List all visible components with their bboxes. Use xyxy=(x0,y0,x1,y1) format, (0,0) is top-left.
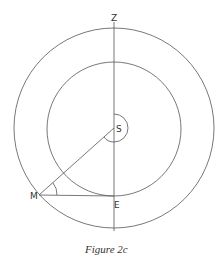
label-S: S xyxy=(116,124,122,134)
figure-caption: Figure 2c xyxy=(84,243,128,255)
label-M: M xyxy=(30,191,38,201)
angle-arc-at-S-small xyxy=(104,137,114,142)
label-E: E xyxy=(114,200,120,210)
figure-2c-diagram: Z S M E Figure 2c xyxy=(0,0,224,258)
angle-arc-at-M xyxy=(53,183,57,195)
label-Z: Z xyxy=(111,13,117,23)
